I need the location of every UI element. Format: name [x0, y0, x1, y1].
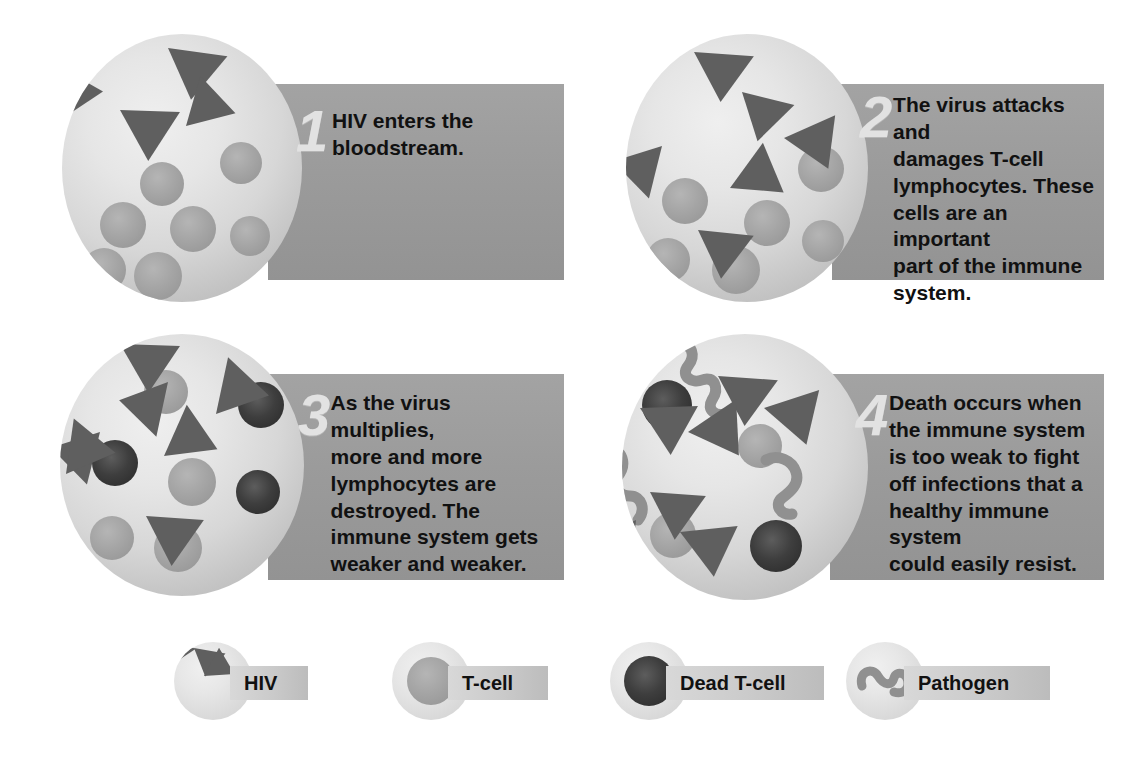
step-banner-content-2: 2 The virus attacks and damages T-cell l…: [860, 92, 1104, 307]
tcell: [802, 220, 844, 262]
legend: HIV T-cell Dead T-cell Pathogen: [0, 612, 1137, 759]
step-number-1: 1: [296, 102, 330, 160]
tcell: [646, 238, 690, 282]
tcell: [82, 248, 126, 292]
legend-label-pathogen: Pathogen: [904, 666, 1050, 700]
tcell: [220, 142, 262, 184]
legend-label-tcell: T-cell: [448, 666, 548, 700]
step-banner-content-1: 1 HIV enters the bloodstream.: [296, 108, 546, 162]
step-text-4: Death occurs when the immune system is t…: [889, 390, 1106, 578]
step-banner-content-3: 3 As the virus multiplies, more and more…: [298, 390, 550, 578]
step-text-3: As the virus multiplies, more and more l…: [331, 390, 550, 578]
cell-circle-3: [60, 334, 304, 596]
tcell: [140, 162, 184, 206]
cell-circle-4: [622, 334, 868, 600]
step-number-2: 2: [860, 88, 891, 146]
step-number-4: 4: [856, 386, 887, 444]
legend-label-hiv: HIV: [230, 666, 308, 700]
tcell: [170, 206, 216, 252]
legend-item-hiv: HIV: [174, 612, 374, 759]
dead-tcell: [236, 470, 280, 514]
tcell: [134, 252, 182, 300]
legend-item-pathogen: Pathogen: [846, 612, 1096, 759]
cell-circle-2: [626, 34, 868, 302]
step-number-3: 3: [298, 386, 329, 444]
tcell: [90, 516, 134, 560]
diagram-canvas: 1 HIV enters the bloodstream.: [0, 0, 1137, 759]
step-text-1: HIV enters the bloodstream.: [332, 108, 473, 162]
legend-item-dead-tcell: Dead T-cell: [610, 612, 860, 759]
step-banner-content-4: 4 Death occurs when the immune system is…: [856, 390, 1106, 578]
tcell: [662, 178, 708, 224]
step-text-2: The virus attacks and damages T-cell lym…: [893, 92, 1104, 307]
legend-label-dead-tcell: Dead T-cell: [666, 666, 824, 700]
tcell: [230, 216, 270, 256]
legend-item-tcell: T-cell: [392, 612, 612, 759]
cell-circle-1: [62, 34, 302, 302]
tcell: [100, 202, 146, 248]
pathogen: [762, 452, 852, 532]
